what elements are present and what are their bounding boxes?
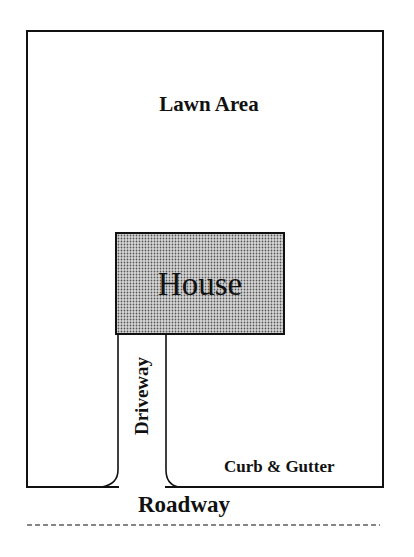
curb-gutter-label: Curb & Gutter xyxy=(224,457,334,477)
driveway-label: Driveway xyxy=(131,357,153,435)
roadway-label: Roadway xyxy=(0,492,368,518)
lawn-area-label: Lawn Area xyxy=(0,92,414,117)
house-label: House xyxy=(116,266,284,303)
